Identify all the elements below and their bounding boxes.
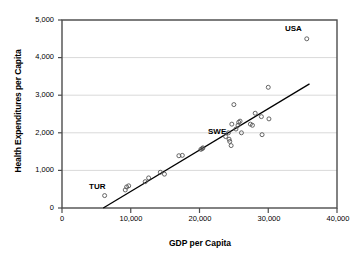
plot-area — [0, 0, 360, 261]
data-points — [103, 37, 309, 198]
annotation-usa: USA — [285, 24, 302, 33]
annotation-swe: SWE — [208, 127, 226, 136]
plot-frame — [62, 20, 337, 208]
trend-line — [103, 84, 309, 208]
scatter-chart-figure: Health Expenditures per Capita 5,000 4,0… — [0, 0, 360, 261]
annotation-tur: TUR — [89, 182, 105, 191]
